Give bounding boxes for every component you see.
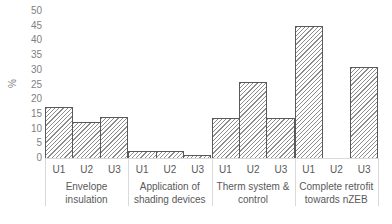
bar-u2 xyxy=(239,82,267,158)
y-tick-label: 20 xyxy=(16,94,42,104)
bar-u1 xyxy=(295,26,323,158)
group-separator xyxy=(128,158,129,206)
x-group-label: Complete retrofittowards nZEB xyxy=(295,180,378,206)
x-tick-label: U1 xyxy=(211,164,239,175)
group-label-line: Complete retrofit xyxy=(295,180,378,193)
bar-u2 xyxy=(156,151,184,158)
group-label-line: shading devices xyxy=(128,193,211,206)
figure-caption xyxy=(0,214,392,224)
x-tick-label: U1 xyxy=(45,164,73,175)
x-tick-label: U2 xyxy=(322,164,350,175)
bar-chart: % 50454035302520151050 U1U2U3Envelope in… xyxy=(0,0,392,224)
x-tick-label: U1 xyxy=(128,164,156,175)
x-tick-label: U2 xyxy=(239,164,267,175)
bar-u2 xyxy=(72,122,100,158)
group-label-line: Envelope insulation xyxy=(45,180,128,206)
group-label-line: control xyxy=(212,193,295,206)
bar-u1 xyxy=(45,107,73,158)
bar-u1 xyxy=(212,118,240,158)
y-tick-label: 10 xyxy=(16,124,42,134)
x-group-label: Envelope insulation xyxy=(45,180,128,206)
bar-u3 xyxy=(100,117,128,158)
x-tick-label: U1 xyxy=(295,164,323,175)
x-tick-label: U3 xyxy=(184,164,212,175)
group-separator xyxy=(212,158,213,206)
group-separator xyxy=(45,158,46,206)
group-separator xyxy=(378,158,379,206)
group-separator xyxy=(295,158,296,206)
y-tick-label: 50 xyxy=(16,6,42,16)
y-tick-label: 15 xyxy=(16,109,42,119)
y-tick-label: 0 xyxy=(16,153,42,163)
bar-u3 xyxy=(350,67,378,158)
y-tick-label: 40 xyxy=(16,35,42,45)
bar-u3 xyxy=(266,118,294,158)
bar-u1 xyxy=(128,151,156,158)
x-group-label: Therm system &control xyxy=(212,180,295,206)
plot-area xyxy=(45,11,378,158)
y-tick-label: 25 xyxy=(16,80,42,90)
y-tick-label: 35 xyxy=(16,50,42,60)
y-tick-label: 45 xyxy=(16,21,42,31)
group-label-line: Application of xyxy=(128,180,211,193)
group-label-line: towards nZEB xyxy=(295,193,378,206)
group-label-line: Therm system & xyxy=(212,180,295,193)
x-tick-label: U2 xyxy=(156,164,184,175)
y-tick-label: 5 xyxy=(16,138,42,148)
x-tick-label: U3 xyxy=(267,164,295,175)
y-tick-label: 30 xyxy=(16,65,42,75)
x-tick-label: U2 xyxy=(73,164,101,175)
x-tick-label: U3 xyxy=(100,164,128,175)
x-group-label: Application ofshading devices xyxy=(128,180,211,206)
x-tick-label: U3 xyxy=(350,164,378,175)
